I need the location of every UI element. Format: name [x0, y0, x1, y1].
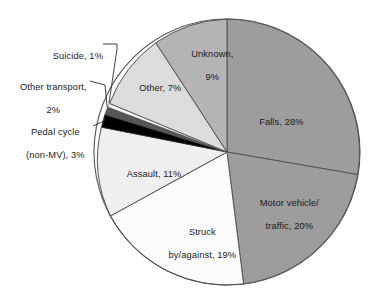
callout-label-other-transport-line1: Other transport,: [20, 82, 87, 92]
pie-slice-falls[interactable]: [227, 19, 360, 175]
slice-label-struck-line1: Struck: [189, 227, 216, 237]
slice-label-unknown-line2: 9%: [206, 72, 220, 82]
slice-label-assault: Assault, 11%: [106, 157, 192, 192]
slice-label-falls: Falls, 28%: [234, 105, 318, 140]
callout-label-suicide: Suicide, 1%: [19, 39, 103, 74]
slice-label-motor-vehicle-line1: Motor vehicle/: [260, 198, 319, 208]
slice-label-struck-line2: by/against, 19%: [169, 250, 237, 260]
leader-line-other-transport: [90, 81, 107, 108]
slice-label-unknown: Unknown, 9%: [169, 37, 245, 95]
callout-label-pedal-cycle: Pedal cycle (non-MV), 3%: [6, 115, 94, 173]
slice-label-motor-vehicle-line2: traffic, 20%: [266, 221, 314, 231]
slice-label-assault-text: Assault, 11%: [127, 169, 182, 179]
pie-chart-figure: Falls, 28% Motor vehicle/ traffic, 20% S…: [0, 0, 375, 303]
callout-label-other-transport-line2: 2%: [47, 105, 61, 115]
callout-label-pedal-cycle-line2: (non-MV), 3%: [26, 150, 85, 160]
slice-label-struck-by-against: Struck by/against, 19%: [141, 215, 253, 273]
slice-label-falls-text: Falls, 28%: [259, 117, 303, 127]
callout-label-pedal-cycle-line1: Pedal cycle: [31, 127, 80, 137]
slice-label-unknown-line1: Unknown,: [191, 49, 233, 59]
callout-label-suicide-text: Suicide, 1%: [53, 51, 103, 61]
